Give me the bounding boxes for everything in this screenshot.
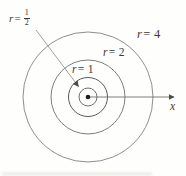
origin-dot	[86, 95, 91, 100]
label-r-half: r= 12	[9, 10, 30, 29]
label-x-axis: x	[170, 101, 175, 113]
scan-artifact	[2, 172, 152, 176]
label-r-half-eq: =	[15, 12, 22, 24]
leader-arrow-r-half	[36, 30, 79, 87]
label-r-1: r= 1	[72, 64, 94, 76]
label-r-2-rest: = 2	[109, 46, 125, 58]
figure-concentric-circles: r= 12 r= 1 r= 2 r= 4 x	[0, 0, 186, 176]
label-r-2: r= 2	[103, 47, 125, 59]
label-r-4-rest: = 4	[143, 27, 160, 41]
label-r-1-rest: = 1	[78, 63, 94, 75]
label-r-half-fraction: 12	[24, 9, 30, 28]
fraction-numerator: 1	[24, 9, 30, 18]
fraction-denominator: 2	[24, 18, 30, 28]
label-r-4: r= 4	[137, 28, 161, 41]
